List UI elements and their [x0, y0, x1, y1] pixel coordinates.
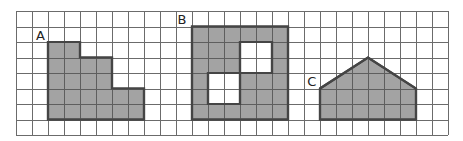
diagram-canvas: A B C	[0, 0, 463, 141]
shape-label-a: A	[36, 28, 45, 43]
shape-label-c: C	[307, 74, 316, 89]
grid-diagram: A B C	[0, 0, 463, 141]
shape-label-b: B	[178, 12, 187, 27]
